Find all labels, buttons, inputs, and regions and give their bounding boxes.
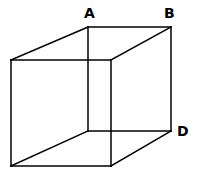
- edge-depth-bottom-right: [111, 131, 171, 166]
- vertex-label-d: D: [177, 124, 189, 138]
- cube-diagram: A B D: [0, 0, 198, 179]
- edge-depth-top-left: [11, 27, 88, 60]
- cube-wireframe: [0, 0, 198, 179]
- front-face: [11, 60, 111, 166]
- back-face: [88, 27, 171, 131]
- depth-edges: [11, 27, 171, 166]
- vertex-label-b: B: [164, 6, 175, 20]
- vertex-label-a: A: [84, 6, 95, 20]
- edge-depth-bottom-left: [11, 131, 88, 166]
- edge-depth-top-right: [111, 27, 171, 60]
